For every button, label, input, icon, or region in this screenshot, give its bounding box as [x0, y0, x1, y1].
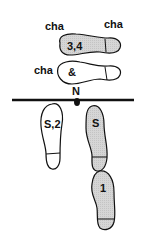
footprint-1: 1 — [92, 171, 115, 230]
footprint-s2: S,2 — [41, 104, 63, 169]
cha-label-top-left: cha — [45, 20, 65, 32]
diagram-canvas: cha cha 3,4 cha & N S,2 S — [0, 0, 154, 235]
footprint-s2-label: S,2 — [44, 118, 61, 130]
cha-label-top-right: cha — [104, 18, 124, 30]
footprint-s-label: S — [92, 117, 99, 129]
footprint-diagram: cha cha 3,4 cha & N S,2 S — [0, 0, 154, 235]
line-marker-dot — [74, 98, 80, 106]
line-marker-label: N — [72, 85, 80, 97]
footprint-s: S — [86, 106, 107, 171]
footprint-3-4-label: 3,4 — [67, 40, 83, 52]
footprint-and: & — [58, 61, 121, 84]
footprint-1-label: 1 — [100, 182, 106, 194]
cha-label-middle: cha — [34, 64, 54, 76]
footprint-3-4: 3,4 — [60, 34, 121, 55]
footprint-and-label: & — [68, 66, 76, 78]
